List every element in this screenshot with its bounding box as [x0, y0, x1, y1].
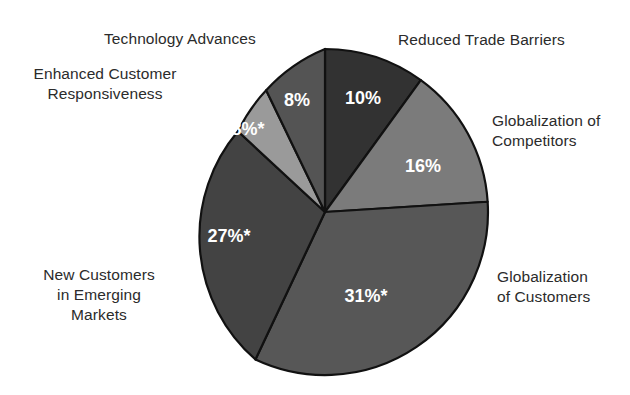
slice-value-enhanced-customer-responsiveness: 8%*: [231, 119, 264, 139]
slice-value-globalization-of-competitors: 16%: [405, 156, 441, 176]
slice-value-technology-advances: 8%: [284, 90, 310, 110]
callout-label-enhanced-customer-responsiveness: Enhanced Customer Responsiveness: [10, 64, 200, 104]
slice-value-new-customers-in-emerging-markets: 27%*: [207, 226, 250, 246]
callout-label-globalization-of-customers: Globalization of Customers: [497, 267, 590, 307]
pie-slices: [199, 49, 488, 375]
pie-chart-page: 10% 16% 31%* 27%* 8%* 8% Reduced Trade B…: [0, 0, 630, 395]
callout-label-reduced-trade-barriers: Reduced Trade Barriers: [398, 30, 565, 50]
slice-value-globalization-of-customers: 31%*: [344, 286, 387, 306]
callout-label-technology-advances: Technology Advances: [104, 29, 256, 49]
callout-label-globalization-of-competitors: Globalization of Competitors: [492, 111, 600, 151]
pie-chart: 10% 16% 31%* 27%* 8%* 8%: [0, 0, 630, 395]
slice-value-reduced-trade-barriers: 10%: [345, 88, 381, 108]
callout-label-new-customers-in-emerging-markets: New Customers in Emerging Markets: [24, 265, 174, 324]
